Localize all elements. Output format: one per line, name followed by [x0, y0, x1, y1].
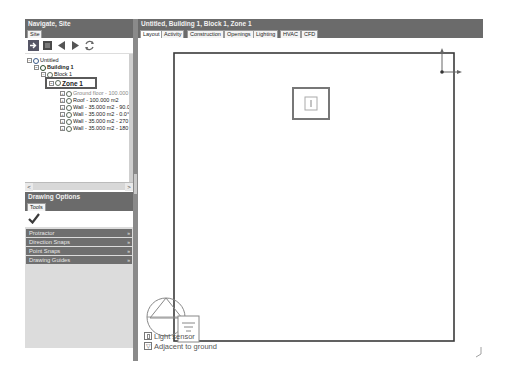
section-drawing-guides[interactable]: Drawing Guides »: [26, 256, 132, 264]
collapse-icon[interactable]: −: [49, 81, 54, 86]
site-tree: − Untitled − Building 1 − Block 1 − Zone…: [25, 54, 133, 182]
expand-icon[interactable]: +: [60, 126, 65, 131]
expand-chevron-icon: »: [127, 229, 130, 237]
tab-lighting[interactable]: Lighting: [253, 30, 278, 38]
tree-node-wall[interactable]: + Wall - 35.000 m2 - 90.0: [60, 104, 130, 111]
adjacent-ground-icon: ▽: [144, 342, 152, 350]
refresh-icon[interactable]: [84, 40, 95, 51]
tree-node-roof[interactable]: + Roof - 100.000 m2: [60, 97, 119, 104]
left-panel: Navigate, Site Site − Untitled − Buildin…: [25, 19, 133, 361]
tree-node-untitled[interactable]: − Untitled: [27, 57, 59, 64]
drawing-options-sections: Protractor » Direction Snaps » Point Sna…: [25, 227, 133, 348]
tab-tools[interactable]: Tools: [27, 203, 46, 211]
expand-icon[interactable]: +: [60, 112, 65, 117]
tree-node-wall[interactable]: + Wall - 35.000 m2 - 0.0°: [60, 111, 129, 118]
expand-chevron-icon: »: [127, 238, 130, 246]
main-area: Untitled, Building 1, Block 1, Zone 1 La…: [138, 19, 483, 361]
section-protractor[interactable]: Protractor »: [26, 229, 132, 237]
block-icon[interactable]: [42, 40, 53, 51]
surface-icon: [66, 91, 72, 97]
surface-icon: [66, 98, 72, 104]
tools-toolbar: [25, 211, 133, 227]
navigate-tabstrip: Site: [25, 29, 133, 38]
expand-icon[interactable]: +: [60, 91, 65, 96]
back-arrow-icon[interactable]: [56, 40, 67, 51]
navigate-panel-title: Navigate, Site: [25, 19, 133, 29]
tab-site[interactable]: Site: [27, 30, 42, 38]
tab-hvac[interactable]: HVAC: [280, 30, 301, 38]
building-icon: [40, 65, 46, 71]
section-point-snaps[interactable]: Point Snaps »: [26, 247, 132, 255]
tree-node-wall[interactable]: + Wall - 35.000 m2 - 180: [60, 125, 128, 132]
expand-chevron-icon: »: [127, 256, 130, 264]
surface-icon: [66, 119, 72, 125]
checkmark-icon[interactable]: [28, 213, 40, 224]
surface-icon: [66, 112, 72, 118]
legend-item-adjacent-ground: ▽ Adjacent to ground: [144, 341, 217, 351]
site-icon: [33, 58, 39, 64]
tree-node-zone-selected[interactable]: − Zone 1: [45, 77, 97, 89]
tree-node-building[interactable]: − Building 1: [34, 64, 74, 71]
tree-node-wall[interactable]: + Wall - 35.000 m2 - 270: [60, 118, 128, 125]
collapse-icon[interactable]: −: [27, 58, 32, 63]
zone-icon: [55, 80, 61, 86]
tab-cfd[interactable]: CFD: [301, 30, 318, 38]
enter-icon[interactable]: [28, 40, 39, 51]
section-direction-snaps[interactable]: Direction Snaps »: [26, 238, 132, 246]
expand-chevron-icon: »: [127, 247, 130, 255]
main-tabstrip: Layout Activity Construction Openings Li…: [138, 29, 483, 38]
forward-arrow-icon[interactable]: [70, 40, 81, 51]
legend: Light sensor ▽ Adjacent to ground: [144, 331, 217, 351]
tree-horizontal-scrollbar[interactable]: < >: [25, 182, 133, 190]
expand-icon[interactable]: +: [60, 105, 65, 110]
scroll-right-button[interactable]: >: [125, 183, 133, 191]
tree-node-ground-floor[interactable]: + Ground floor - 100.000: [60, 90, 128, 97]
splitter-grip[interactable]: [134, 174, 137, 194]
collapse-icon[interactable]: −: [34, 65, 39, 70]
scroll-left-button[interactable]: <: [25, 183, 33, 191]
surface-icon: [66, 105, 72, 111]
surface-icon: [66, 126, 72, 132]
layout-canvas[interactable]: [138, 38, 483, 361]
legend-item-light-sensor: Light sensor: [144, 331, 217, 341]
light-sensor-icon: [144, 332, 152, 340]
navigate-toolbar: [25, 38, 133, 54]
tab-construction[interactable]: Construction: [187, 30, 224, 38]
drawing-options-tabstrip: Tools: [25, 202, 133, 211]
tab-activity[interactable]: Activity: [161, 30, 184, 38]
tab-openings[interactable]: Openings: [224, 30, 254, 38]
tab-layout[interactable]: Layout: [140, 30, 163, 38]
drawing-options-title: Drawing Options: [25, 192, 133, 202]
expand-icon[interactable]: +: [60, 119, 65, 124]
main-title: Untitled, Building 1, Block 1, Zone 1: [138, 19, 483, 29]
expand-icon[interactable]: +: [60, 98, 65, 103]
